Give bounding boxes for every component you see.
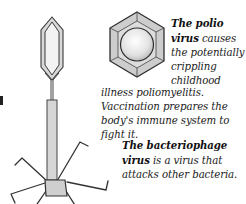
phage-leg-bottom-left	[33, 191, 46, 204]
polio-virus-icon	[110, 12, 164, 77]
edge-mark	[0, 96, 3, 105]
bacteriophage-icon	[11, 17, 108, 204]
phage-head-inner	[45, 22, 59, 75]
polio-text-line2: causes	[199, 33, 236, 44]
phage-leg-upper-right	[57, 142, 88, 181]
polio-text-line4: crippling	[171, 60, 246, 74]
polio-text-line3: the potentially	[171, 46, 246, 60]
phage-leg-upper-left	[15, 158, 47, 181]
polio-caption-continued: illness poliomyelitis. Vaccination prepa…	[101, 86, 246, 142]
polio-text-continued: illness poliomyelitis. Vaccination prepa…	[101, 87, 229, 140]
phage-baseplate	[45, 180, 67, 196]
bacteriophage-caption: The bacteriophage virus is a virus that …	[122, 138, 246, 182]
polio-title-line2: virus	[171, 32, 199, 44]
phage-leg-lower-right	[67, 181, 108, 190]
polio-core-sphere	[121, 28, 154, 61]
polio-caption: The polio virus causes the potentially c…	[171, 16, 246, 88]
phage-tail-sheath	[47, 100, 57, 180]
phage-leg-bottom-right	[66, 191, 78, 204]
polio-title-line1: The polio	[171, 17, 224, 29]
